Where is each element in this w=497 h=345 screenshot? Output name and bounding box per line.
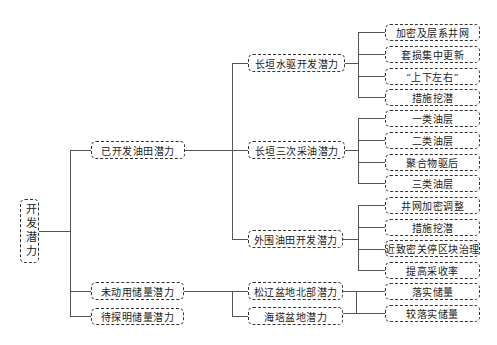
leaf-node: 较落实储量 <box>385 305 480 322</box>
connector <box>232 316 248 317</box>
connector <box>358 270 385 271</box>
leaf-node: “上下左右” <box>385 68 480 85</box>
node-peripheral-oilfield: 外围油田开发潜力 <box>248 230 343 248</box>
connector <box>232 150 248 151</box>
connector <box>232 63 233 240</box>
connector <box>184 291 248 292</box>
connector <box>358 162 385 163</box>
leaf-node: 提高采收率 <box>385 262 480 279</box>
connector <box>232 239 248 240</box>
leaf-node: 聚合物驱后 <box>385 154 480 171</box>
connector <box>232 291 233 317</box>
connector <box>358 118 385 119</box>
connector <box>70 291 91 292</box>
connector <box>358 140 385 141</box>
connector <box>358 32 359 98</box>
connector <box>345 150 358 151</box>
connector <box>343 239 358 240</box>
leaf-node: 二类油层 <box>385 132 480 149</box>
leaf-node: 加密及层系井网 <box>385 24 480 41</box>
connector <box>343 291 385 292</box>
leaf-node: 措施挖潜 <box>385 89 480 106</box>
node-developed-oilfield: 已开发油田潜力 <box>91 141 185 159</box>
node-songliao-north: 松辽盆地北部潜力 <box>248 282 343 300</box>
connector <box>345 63 358 64</box>
node-haita-basin: 海塔盆地潜力 <box>248 307 343 325</box>
connector <box>358 249 385 250</box>
connector <box>38 231 70 232</box>
leaf-node: 落实储量 <box>385 283 480 300</box>
connector <box>356 291 357 314</box>
node-changyuan-tertiary: 长垣三次采油潜力 <box>248 141 345 159</box>
root-node: 开发潜力 <box>20 199 39 263</box>
node-changyuan-waterflood: 长垣水驱开发潜力 <box>248 54 345 72</box>
connector <box>70 150 91 151</box>
connector <box>358 32 385 33</box>
connector <box>358 183 385 184</box>
leaf-node: 三类油层 <box>385 175 480 192</box>
connector <box>343 313 385 314</box>
connector <box>358 205 359 271</box>
connector <box>232 63 248 64</box>
connector <box>185 150 232 151</box>
connector <box>358 205 385 206</box>
node-undeveloped-reserves: 未动用储量潜力 <box>91 282 184 300</box>
leaf-node: 措施挖潜 <box>385 219 480 236</box>
connector <box>358 227 385 228</box>
leaf-node: 套损集中更新 <box>385 46 480 63</box>
node-unproven-reserves: 待探明储量潜力 <box>91 308 184 325</box>
connector <box>358 54 385 55</box>
connector <box>358 76 385 77</box>
leaf-node: 一类油层 <box>385 110 480 127</box>
connector <box>70 316 91 317</box>
connector <box>358 97 385 98</box>
connector <box>358 118 359 184</box>
leaf-node: 井网加密调整 <box>385 197 480 214</box>
leaf-node: 近致密关停区块治理 <box>385 240 480 257</box>
